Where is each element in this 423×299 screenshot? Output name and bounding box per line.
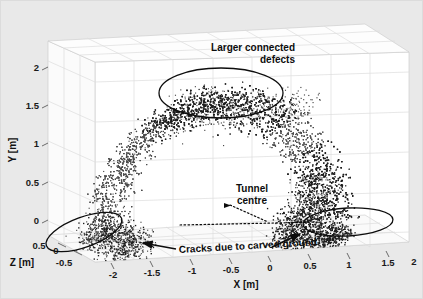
- z-tick-label: 0.5: [32, 240, 46, 251]
- scatter-plot-3d: 2 1.5 1 0.5 0 0.5 0 -0.5 -2 -1.5 -1 -0.5…: [0, 0, 423, 299]
- x-tick-label: -0.5: [223, 264, 240, 275]
- tunnel-centre-label-line1: Tunnel: [236, 183, 268, 194]
- defects-label-line1: Larger connected: [211, 42, 295, 53]
- x-tick-label: 0.5: [303, 260, 317, 271]
- y-tick-label: 0: [34, 215, 39, 226]
- x-tick-label: -1.5: [144, 267, 161, 278]
- figure-container: 2 1.5 1 0.5 0 0.5 0 -0.5 -2 -1.5 -1 -0.5…: [0, 0, 423, 299]
- y-tick-label: 1: [34, 138, 40, 149]
- z-axis-label: Z [m]: [10, 257, 34, 268]
- x-tick-label: 0: [267, 262, 272, 273]
- tunnel-centre-label-line2: centre: [237, 195, 267, 206]
- y-axis-tick-labels: 2 1.5 1 0.5 0: [26, 62, 40, 226]
- x-tick-label: -2: [109, 269, 117, 280]
- y-tick-label: 0.5: [26, 177, 40, 188]
- y-axis-label: Y [m]: [7, 138, 18, 163]
- y-tick-label: 1.5: [26, 100, 40, 111]
- x-tick-label: 2: [411, 256, 416, 267]
- y-tick-label: 2: [34, 62, 39, 73]
- x-tick-label: 1: [346, 259, 352, 270]
- x-axis-label: X [m]: [234, 279, 259, 290]
- x-tick-label: -1: [188, 265, 197, 276]
- z-tick-label: -0.5: [56, 257, 73, 268]
- defects-label-line2: defects: [260, 54, 295, 65]
- x-tick-label: 1.5: [381, 257, 395, 268]
- x-axis-tick-labels: -2 -1.5 -1 -0.5 0 0.5 1 1.5 2: [109, 256, 417, 280]
